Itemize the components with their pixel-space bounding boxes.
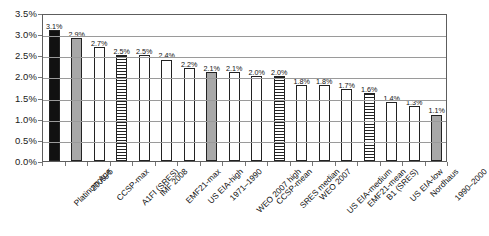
x-tick-mark — [87, 162, 88, 166]
x-axis-category-label: 2000–5 — [89, 167, 114, 192]
y-tick-label: 1.5% — [15, 94, 37, 104]
bar-value-label: 1.1% — [429, 107, 445, 114]
x-tick-mark — [65, 162, 66, 166]
y-tick-label: 0.0% — [15, 157, 37, 167]
bar-value-label: 2.1% — [226, 65, 242, 72]
x-tick-mark — [177, 162, 178, 166]
bar: 2.2% — [184, 68, 195, 161]
bar-value-label: 2.4% — [159, 52, 175, 59]
bar-value-label: 2.2% — [181, 61, 197, 68]
x-tick-mark — [267, 162, 268, 166]
x-tick-mark — [312, 162, 313, 166]
gridline — [43, 36, 446, 37]
bar-value-label: 1.6% — [361, 86, 377, 93]
x-tick-mark — [335, 162, 336, 166]
y-tick-label: 1.0% — [15, 115, 37, 125]
plot-area: 3.1%2.9%2.7%2.5%2.5%2.4%2.2%2.1%2.1%2.0%… — [42, 14, 447, 162]
bar-value-label: 2.0% — [271, 69, 287, 76]
bar: 1.8% — [296, 85, 307, 161]
bar-value-label: 2.1% — [204, 65, 220, 72]
x-tick-mark — [402, 162, 403, 166]
bar: 2.5% — [139, 55, 150, 161]
bar: 2.4% — [161, 60, 172, 161]
x-tick-mark — [110, 162, 111, 166]
bar-value-label: 3.1% — [46, 23, 62, 30]
y-tick-label: 3.5% — [15, 9, 37, 19]
x-tick-mark — [425, 162, 426, 166]
y-axis: 3.5%3.0%2.5%2.0%1.5%1.0%0.5%0.0% — [0, 0, 40, 170]
bar-value-label: 2.9% — [69, 31, 85, 38]
x-axis-labels: Platinum Age2000–5CCSP-maxA1FI (SRES)IMF… — [42, 167, 447, 236]
bar-value-label: 2.5% — [114, 48, 130, 55]
y-tick-label: 2.5% — [15, 52, 37, 62]
x-tick-mark — [245, 162, 246, 166]
x-tick-mark — [357, 162, 358, 166]
y-tick-label: 3.0% — [15, 30, 37, 40]
x-tick-mark — [222, 162, 223, 166]
x-tick-mark — [42, 162, 43, 166]
bar-value-label: 2.0% — [249, 69, 265, 76]
bar: 2.1% — [229, 72, 240, 161]
bar: 2.1% — [206, 72, 217, 161]
bar: 1.4% — [386, 102, 397, 161]
y-tick-label: 2.0% — [15, 73, 37, 83]
gridline — [43, 100, 446, 101]
gridline — [43, 57, 446, 58]
x-tick-mark — [380, 162, 381, 166]
bar-value-label: 1.7% — [339, 82, 355, 89]
x-tick-mark — [447, 162, 448, 166]
gridline — [43, 142, 446, 143]
x-tick-mark — [200, 162, 201, 166]
gridline — [43, 121, 446, 122]
bar: 2.0% — [251, 76, 262, 161]
x-tick-mark — [132, 162, 133, 166]
bar-value-label: 2.7% — [91, 40, 107, 47]
bar: 1.3% — [409, 106, 420, 161]
bar: 1.6% — [364, 93, 375, 161]
bar: 2.5% — [116, 55, 127, 161]
bar-value-label: 1.4% — [384, 95, 400, 102]
x-tick-mark — [155, 162, 156, 166]
bar-value-label: 2.5% — [136, 48, 152, 55]
bar: 2.7% — [94, 47, 105, 161]
bar: 2.0% — [274, 76, 285, 161]
y-tick-label: 0.5% — [15, 136, 37, 146]
x-tick-mark — [290, 162, 291, 166]
bar: 1.8% — [319, 85, 330, 161]
gridline — [43, 78, 446, 79]
